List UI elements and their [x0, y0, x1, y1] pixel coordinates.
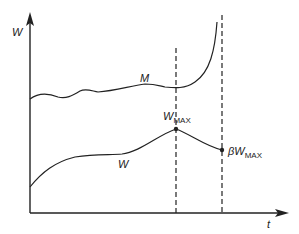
diagram-canvas: W t M W WMAX βWMAX [0, 0, 299, 234]
curve-m [30, 22, 217, 99]
y-axis-label: W [12, 26, 24, 38]
wmax-label: WMAX [163, 110, 191, 125]
curve-w-label: W [118, 158, 130, 170]
beta-wmax-point [220, 148, 224, 152]
wmax-point [174, 127, 178, 131]
beta-wmax-label: βWMAX [227, 145, 263, 160]
curve-m-label: M [140, 72, 150, 84]
x-axis-label: t [267, 218, 271, 230]
